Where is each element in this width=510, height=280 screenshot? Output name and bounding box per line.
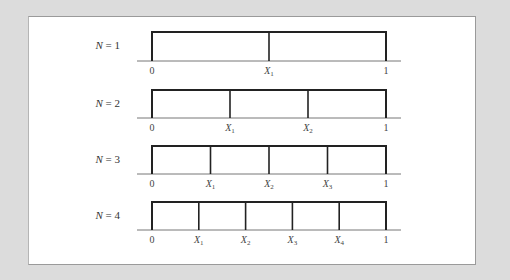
tick-label: 0 (150, 65, 155, 76)
interval-diagram: N = 10X11N = 20X1X21N = 30X1X2X31N = 40X… (0, 0, 510, 280)
row-n-2: N = 20X1X21 (94, 90, 401, 135)
tick-label: 0 (150, 122, 155, 133)
row-label: N = 1 (94, 39, 120, 51)
row-label: N = 2 (94, 97, 120, 109)
row-label: N = 4 (94, 209, 120, 221)
tick-label: X1 (263, 65, 274, 78)
row-n-4: N = 40X1X2X3X41 (94, 202, 401, 247)
tick-label: X1 (193, 234, 204, 247)
tick-label: 0 (150, 178, 155, 189)
tick-label: 1 (384, 234, 389, 245)
tick-label: X2 (302, 122, 313, 135)
tick-label: X3 (287, 234, 298, 247)
tick-label: 1 (384, 178, 389, 189)
tick-label: X2 (263, 178, 274, 191)
tick-label: X4 (333, 234, 344, 247)
interval-box (152, 202, 386, 230)
interval-box (152, 90, 386, 118)
row-n-1: N = 10X11 (94, 32, 401, 78)
tick-label: 1 (384, 65, 389, 76)
tick-label: X1 (224, 122, 235, 135)
row-label: N = 3 (94, 153, 120, 165)
tick-label: 1 (384, 122, 389, 133)
tick-label: X1 (205, 178, 216, 191)
tick-label: X2 (240, 234, 251, 247)
tick-label: X3 (322, 178, 333, 191)
tick-label: 0 (150, 234, 155, 245)
row-n-3: N = 30X1X2X31 (94, 146, 401, 191)
